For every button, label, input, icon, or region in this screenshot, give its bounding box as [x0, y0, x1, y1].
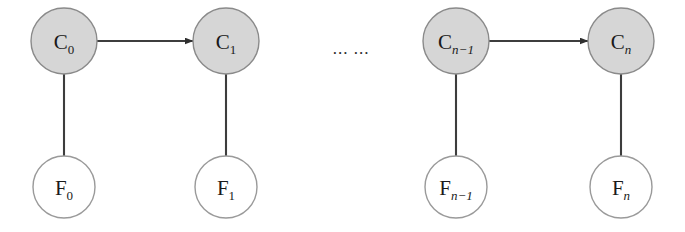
diagram-canvas: C0C1Cn−1Cn F0F1Fn−1Fn ... ... [0, 0, 685, 232]
observed-node-fn-1: Fn−1 [425, 156, 487, 218]
chain-graph-diagram: C0C1Cn−1Cn F0F1Fn−1Fn ... ... [0, 0, 685, 232]
hidden-node-c1: C1 [193, 8, 259, 74]
undirected-edges-group [64, 74, 621, 156]
hidden-node-cn: Cn [588, 8, 654, 74]
hidden-node-c0: C0 [31, 8, 97, 74]
hidden-node-cn-1: Cn−1 [423, 8, 489, 74]
observed-nodes-group: F0F1Fn−1Fn [33, 156, 652, 218]
chain-ellipsis: ... ... [333, 39, 370, 58]
observed-node-f0: F0 [33, 156, 95, 218]
observed-node-fn: Fn [590, 156, 652, 218]
observed-node-f1: F1 [195, 156, 257, 218]
